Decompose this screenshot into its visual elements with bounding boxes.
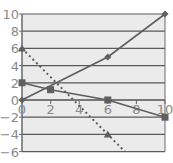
line-chart: 1086420−2−4−6 0246810 — [0, 0, 173, 163]
y-tick-label: −4 — [0, 127, 19, 142]
x-tick-label: 6 — [104, 102, 112, 117]
y-tick-label: −2 — [0, 110, 19, 125]
x-tick-label: 0 — [18, 102, 26, 117]
square-marker — [47, 86, 54, 93]
y-tick-label: −6 — [0, 145, 19, 160]
square-marker — [19, 79, 26, 86]
y-tick-label: 8 — [11, 24, 19, 39]
y-tick-label: 4 — [11, 59, 19, 74]
y-tick-label: 2 — [11, 76, 19, 91]
square-marker — [104, 97, 111, 104]
x-tick-label: 2 — [46, 102, 54, 117]
y-tick-label: 6 — [11, 41, 19, 56]
square-marker — [162, 114, 169, 121]
y-tick-label: 10 — [2, 7, 19, 22]
y-tick-labels: 1086420−2−4−6 — [0, 7, 19, 160]
